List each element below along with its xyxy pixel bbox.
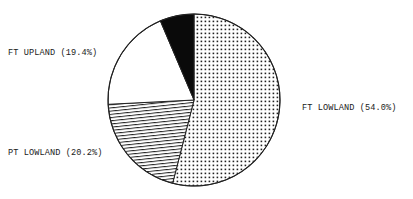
pie-slices [108,14,280,186]
slice-label-ft-lowland: FT LOWLAND (54.0%) [302,103,397,113]
slice-label-ft-upland: FT UPLAND (19.4%) [8,48,97,58]
pie-chart: FT LOWLAND (54.0%)PT LOWLAND (20.2%)FT U… [0,0,413,199]
slice-label-pt-lowland: PT LOWLAND (20.2%) [8,148,103,158]
